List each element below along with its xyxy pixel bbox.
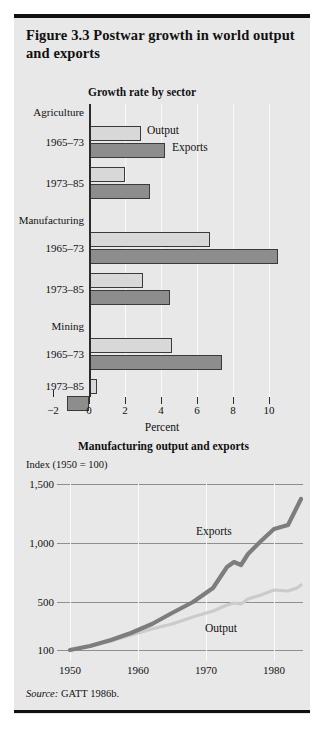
line-ylabel-1000: 1,000 [12,537,54,549]
bar-tickmark-0 [89,397,90,404]
bar-ticklabel-6: 6 [194,404,200,416]
bar-category-labels: Agriculture 1965–73 1973–85 Manufacturin… [0,104,84,397]
bar-row-label-agriculture: Agriculture [0,106,84,118]
bar-row-label-agri-1973-85: 1973–85 [0,177,84,189]
bar-tickmark-8 [233,397,234,404]
bar-tickmark-6 [197,397,198,404]
line-ylabel-500: 500 [12,596,54,608]
bar-mining-1965-73-output [89,338,172,353]
bar-row-label-mining-1965-73: 1965–73 [0,348,84,360]
bar-mining-1965-73-exports [89,355,222,370]
line-xlabel-1960: 1960 [127,664,149,676]
bar-ticklabel-2: 2 [122,404,128,416]
bottom-rule [14,710,310,713]
figure-title: Figure 3.3 Postwar growth in world outpu… [26,26,298,62]
line-xlabel-1970: 1970 [195,664,217,676]
bar-legend-exports: Exports [172,141,208,153]
bar-row-label-manufacturing: Manufacturing [0,214,84,226]
line-chart-subtitle: Manufacturing output and exports [78,440,249,452]
line-xlabel-1980: 1980 [263,664,285,676]
line-ylabel-100: 100 [12,644,54,656]
line-xlabel-1950: 1950 [59,664,81,676]
top-rule [14,14,310,18]
bar-tickmark-2 [125,397,126,404]
bar-row-label-mining-1973-85: 1973–85 [0,380,84,392]
line-chart-plot-area [57,484,303,661]
bar-agriculture-1965-73-output [89,126,141,141]
line-legend-output: Output [205,622,237,634]
bar-agriculture-1965-73-exports [89,143,165,158]
bar-legend-output: Output [147,124,179,136]
line-legend-exports: Exports [196,525,232,537]
bar-agriculture-1973-85-output [89,167,125,182]
bar-tickmark-4 [161,397,162,404]
bar-manufacturing-1965-73-exports [89,249,278,264]
source-body: GATT 1986b. [58,688,119,699]
line-chart-y-labels: 1,500 1,000 500 100 [10,484,54,661]
bar-tickmark--2 [53,390,54,397]
bar-ticklabel-4: 4 [158,404,164,416]
line-chart-index-note: Index (1950 = 100) [26,459,107,470]
bar-ticklabel-0: 0 [86,404,92,416]
bar-agriculture-1973-85-exports [89,184,150,199]
bar-ticklabel--2: −2 [47,404,59,416]
bar-manufacturing-1973-85-exports [89,290,170,305]
line-ylabel-1500: 1,500 [12,478,54,490]
source-note: Source: GATT 1986b. [26,688,119,699]
bar-ticklabel-8: 8 [230,404,236,416]
bar-zero-axis [89,104,91,397]
bar-chart-subtitle: Growth rate by sector [88,86,196,98]
source-label: Source: [26,688,58,699]
figure-container: Figure 3.3 Postwar growth in world outpu… [0,0,324,741]
bar-manufacturing-1973-85-output [89,273,143,288]
bar-tickmark-10 [269,397,270,404]
bar-axis-title: Percent [0,421,324,433]
bar-manufacturing-1965-73-output [89,232,210,247]
bar-row-label-mining: Mining [0,320,84,332]
bar-row-label-manu-1965-73: 1965–73 [0,242,84,254]
bar-row-label-agri-1965-73: 1965–73 [0,136,84,148]
line-chart-svg [57,484,303,661]
line-series-exports [70,499,301,650]
bar-row-label-manu-1973-85: 1973–85 [0,283,84,295]
bar-ticklabel-10: 10 [264,404,275,416]
